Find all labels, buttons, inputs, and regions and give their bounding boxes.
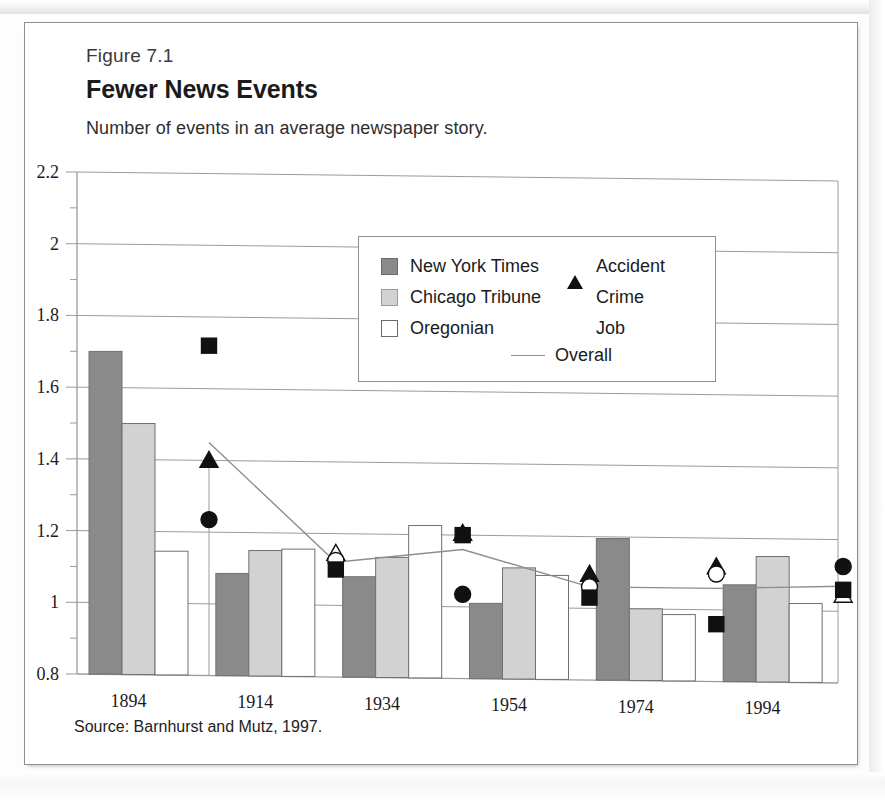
line-marker-icon	[511, 355, 545, 356]
legend-item-new-york-times[interactable]: New York Times	[381, 251, 541, 282]
legend-item-overall[interactable]: Overall	[511, 345, 612, 366]
page-edge-shading-top	[0, 0, 885, 14]
figure-subtitle: Number of events in an average newspaper…	[86, 118, 488, 139]
chart-legend: New York Times Chicago Tribune Oregonian…	[358, 236, 716, 382]
legend-column-markers: Accident Crime Job	[567, 251, 665, 344]
legend-label: Oregonian	[410, 318, 494, 339]
square-swatch-white-icon	[381, 320, 398, 337]
figure-label: Figure 7.1	[86, 45, 174, 67]
square-marker-icon	[567, 320, 584, 337]
legend-label: Job	[596, 318, 625, 339]
legend-label: Crime	[596, 287, 644, 308]
legend-item-oregonian[interactable]: Oregonian	[381, 313, 541, 344]
legend-label: Chicago Tribune	[410, 287, 541, 308]
legend-label: Overall	[555, 345, 612, 366]
legend-item-chicago-tribune[interactable]: Chicago Tribune	[381, 282, 541, 313]
square-swatch-dark-gray-icon	[381, 258, 398, 275]
legend-item-job[interactable]: Job	[567, 313, 665, 344]
legend-item-accident[interactable]: Accident	[567, 251, 665, 282]
triangle-marker-icon	[567, 258, 584, 275]
figure-title: Fewer News Events	[86, 75, 318, 104]
figure-page: Figure 7.1 Fewer News Events Number of e…	[0, 0, 885, 802]
circle-marker-icon	[567, 289, 584, 306]
page-edge-shading-right	[869, 0, 885, 802]
page-edge-shading-bottom	[0, 772, 885, 802]
legend-label: Accident	[596, 256, 665, 277]
figure-source: Source: Barnhurst and Mutz, 1997.	[74, 718, 322, 736]
square-swatch-light-gray-icon	[381, 289, 398, 306]
legend-column-series: New York Times Chicago Tribune Oregonian	[381, 251, 541, 344]
legend-label: New York Times	[410, 256, 539, 277]
